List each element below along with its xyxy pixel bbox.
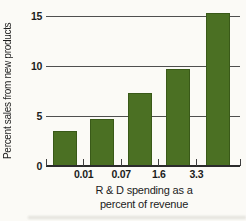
bar-1 [53, 131, 77, 166]
y-tick-label-5: 5 [0, 110, 42, 122]
y-tick-label-15: 15 [0, 10, 42, 22]
x-axis-tick-5 [240, 159, 241, 166]
x-axis-tick-4 [196, 159, 197, 166]
x-tick-label-3.3: 3.3 [174, 169, 218, 180]
x-axis-title-line2: percent of revenue [48, 197, 240, 211]
scan-shadow-artifact [28, 216, 246, 219]
y-tick-label-0: 0 [0, 160, 42, 172]
y-tick-label-10: 10 [0, 60, 42, 72]
x-axis-line [46, 165, 240, 167]
bar-2 [90, 119, 114, 166]
x-axis-tick-1 [83, 159, 84, 166]
x-axis-title-line1: R & D spending as a [48, 183, 240, 197]
x-axis-tick-3 [158, 159, 159, 166]
x-axis-title: R & D spending as a percent of revenue [48, 183, 240, 211]
rnd-spending-bar-chart: Percent sales from new products 0510150.… [0, 0, 246, 221]
bar-4 [166, 69, 190, 166]
x-axis-tick-0 [46, 159, 47, 166]
y-axis-title: Percent sales from new products [2, 14, 17, 168]
x-axis-tick-2 [121, 159, 122, 166]
bar-3 [128, 93, 152, 166]
bar-5 [206, 13, 230, 166]
